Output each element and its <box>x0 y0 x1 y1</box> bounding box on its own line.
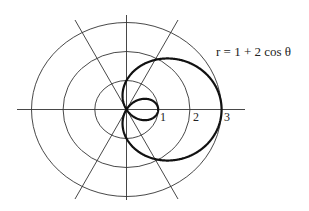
equation-label: r = 1 + 2 cos θ <box>216 44 291 60</box>
tick-label-1: 1 <box>160 110 166 125</box>
polar-plot <box>0 0 309 211</box>
tick-label-2: 2 <box>193 110 199 125</box>
tick-label-3: 3 <box>224 110 230 125</box>
